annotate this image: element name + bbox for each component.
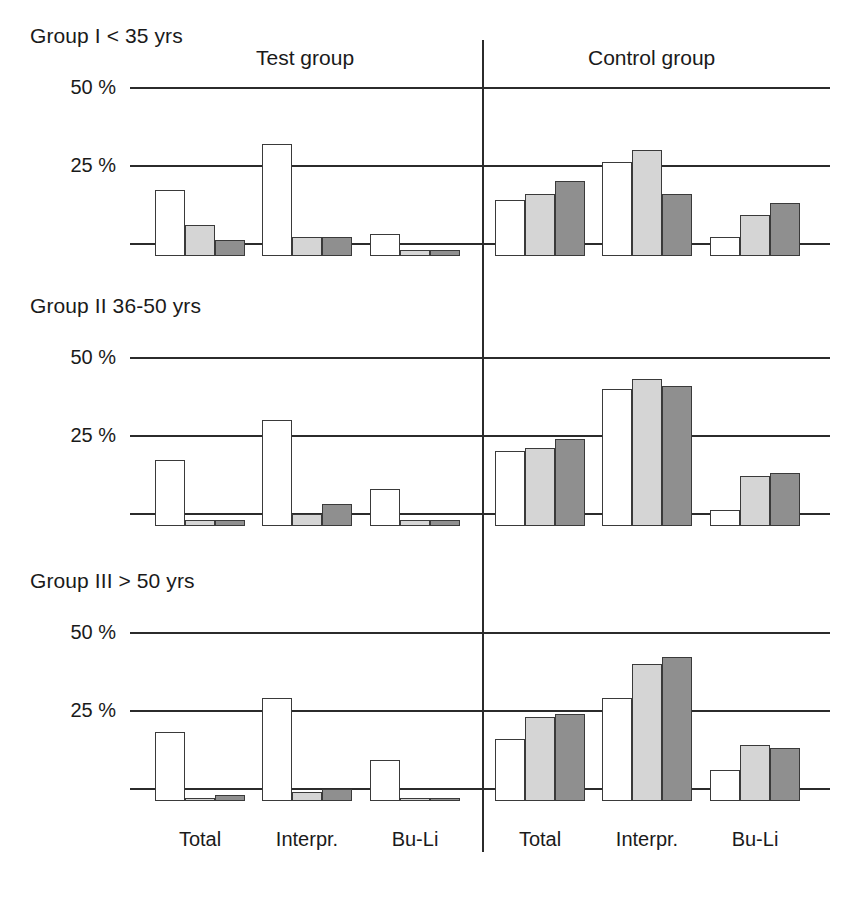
- bar-group-iii-50-yrs-control-total-series2: [525, 717, 555, 801]
- bar-group-ii-36-50-yrs-control-bu-li-series1: [710, 510, 740, 526]
- x-label-control-bu-li: Bu-Li: [732, 828, 779, 851]
- bar-group-i-35-yrs-control-interpr-series3: [662, 194, 692, 256]
- x-label-test-interpr: Interpr.: [276, 828, 338, 851]
- x-label-control-total: Total: [519, 828, 561, 851]
- bar-group-i-35-yrs-test-bu-li-series2: [400, 250, 430, 256]
- bar-group-ii-36-50-yrs-control-total-series1: [495, 451, 525, 526]
- bar-group-ii-36-50-yrs-test-interpr-series2: [292, 514, 322, 526]
- bar-group-ii-36-50-yrs-test-total-series2: [185, 520, 215, 526]
- panel-group-1: Group I < 35 yrs Test group Control grou…: [0, 24, 845, 280]
- bar-group-i-35-yrs-test-interpr-series3: [322, 237, 352, 256]
- bar-group-i-35-yrs-test-interpr-series1: [262, 144, 292, 256]
- bar-group-iii-50-yrs-control-interpr-series1: [602, 698, 632, 801]
- panel-1-gridline-25: [130, 165, 830, 167]
- bar-group-iii-50-yrs-test-interpr-series1: [262, 698, 292, 801]
- test-control-divider: [482, 40, 484, 852]
- bar-group-iii-50-yrs-test-interpr-series2: [292, 792, 322, 801]
- bar-group-iii-50-yrs-control-bu-li-series2: [740, 745, 770, 801]
- bar-group-ii-36-50-yrs-test-total-series1: [155, 460, 185, 526]
- bar-group-i-35-yrs-test-total-series3: [215, 240, 245, 256]
- panel-3-gridline-25: [130, 710, 830, 712]
- panel-2-gridline-25: [130, 435, 830, 437]
- panel-2-ytick-25: 25 %: [70, 424, 116, 447]
- bar-group-iii-50-yrs-test-interpr-series3: [322, 789, 352, 801]
- bar-group-i-35-yrs-test-bu-li-series3: [430, 250, 460, 256]
- bar-group-ii-36-50-yrs-test-interpr-series1: [262, 420, 292, 526]
- panel-group-3: Group III > 50 yrs 50 % 25 %: [0, 569, 845, 825]
- bar-group-iii-50-yrs-control-bu-li-series3: [770, 748, 800, 801]
- bar-group-i-35-yrs-test-total-series1: [155, 190, 185, 256]
- bar-group-ii-36-50-yrs-control-bu-li-series2: [740, 476, 770, 526]
- bar-group-i-35-yrs-control-bu-li-series1: [710, 237, 740, 256]
- panel-1-ytick-50: 50 %: [70, 76, 116, 99]
- bar-group-i-35-yrs-control-total-series1: [495, 200, 525, 256]
- bar-group-ii-36-50-yrs-test-total-series3: [215, 520, 245, 526]
- panel-2-ytick-50: 50 %: [70, 346, 116, 369]
- bar-group-ii-36-50-yrs-control-total-series2: [525, 448, 555, 526]
- bar-group-i-35-yrs-control-bu-li-series2: [740, 215, 770, 256]
- bar-group-i-35-yrs-control-total-series2: [525, 194, 555, 256]
- bar-group-ii-36-50-yrs-test-interpr-series3: [322, 504, 352, 526]
- bar-group-ii-36-50-yrs-control-interpr-series3: [662, 386, 692, 526]
- panel-1-gridline-50: [130, 87, 830, 89]
- bar-group-iii-50-yrs-control-total-series1: [495, 739, 525, 801]
- bar-group-ii-36-50-yrs-test-bu-li-series2: [400, 520, 430, 526]
- bar-group-iii-50-yrs-test-total-series1: [155, 732, 185, 801]
- bar-group-i-35-yrs-control-bu-li-series3: [770, 203, 800, 256]
- panel-2-gridline-50: [130, 357, 830, 359]
- bar-chart-figure: Group I < 35 yrs Test group Control grou…: [0, 0, 845, 897]
- panel-2-plot-area: 50 % 25 %: [130, 294, 830, 526]
- bar-group-iii-50-yrs-test-bu-li-series1: [370, 760, 400, 801]
- bar-group-iii-50-yrs-test-bu-li-series2: [400, 798, 430, 801]
- x-label-test-total: Total: [179, 828, 221, 851]
- panel-group-2: Group II 36-50 yrs 50 % 25 %: [0, 294, 845, 550]
- bar-group-iii-50-yrs-control-interpr-series2: [632, 664, 662, 801]
- bar-group-iii-50-yrs-test-bu-li-series3: [430, 798, 460, 801]
- bar-group-iii-50-yrs-control-total-series3: [555, 714, 585, 801]
- bar-group-ii-36-50-yrs-control-total-series3: [555, 439, 585, 526]
- panel-3-gridline-50: [130, 632, 830, 634]
- bar-group-ii-36-50-yrs-control-bu-li-series3: [770, 473, 800, 526]
- bar-group-iii-50-yrs-control-bu-li-series1: [710, 770, 740, 801]
- panel-1-plot-area: 50 % 25 %: [130, 24, 830, 256]
- bar-group-ii-36-50-yrs-control-interpr-series1: [602, 389, 632, 526]
- bar-group-iii-50-yrs-test-total-series3: [215, 795, 245, 801]
- bar-group-ii-36-50-yrs-test-bu-li-series1: [370, 489, 400, 526]
- bar-group-ii-36-50-yrs-control-interpr-series2: [632, 379, 662, 526]
- panel-3-ytick-50: 50 %: [70, 621, 116, 644]
- x-axis-label-row: TotalInterpr.Bu-LiTotalInterpr.Bu-Li: [0, 828, 845, 868]
- x-label-control-interpr: Interpr.: [616, 828, 678, 851]
- panel-3-ytick-25: 25 %: [70, 699, 116, 722]
- bar-group-i-35-yrs-control-total-series3: [555, 181, 585, 256]
- panel-1-ytick-25: 25 %: [70, 154, 116, 177]
- panel-3-plot-area: 50 % 25 %: [130, 569, 830, 801]
- bar-group-iii-50-yrs-test-total-series2: [185, 798, 215, 801]
- bar-group-i-35-yrs-test-interpr-series2: [292, 237, 322, 256]
- bar-group-iii-50-yrs-control-interpr-series3: [662, 657, 692, 801]
- x-label-test-bu-li: Bu-Li: [392, 828, 439, 851]
- bar-group-i-35-yrs-control-interpr-series1: [602, 162, 632, 256]
- bar-group-i-35-yrs-test-bu-li-series1: [370, 234, 400, 256]
- bar-group-i-35-yrs-control-interpr-series2: [632, 150, 662, 256]
- bar-group-i-35-yrs-test-total-series2: [185, 225, 215, 256]
- bar-group-ii-36-50-yrs-test-bu-li-series3: [430, 520, 460, 526]
